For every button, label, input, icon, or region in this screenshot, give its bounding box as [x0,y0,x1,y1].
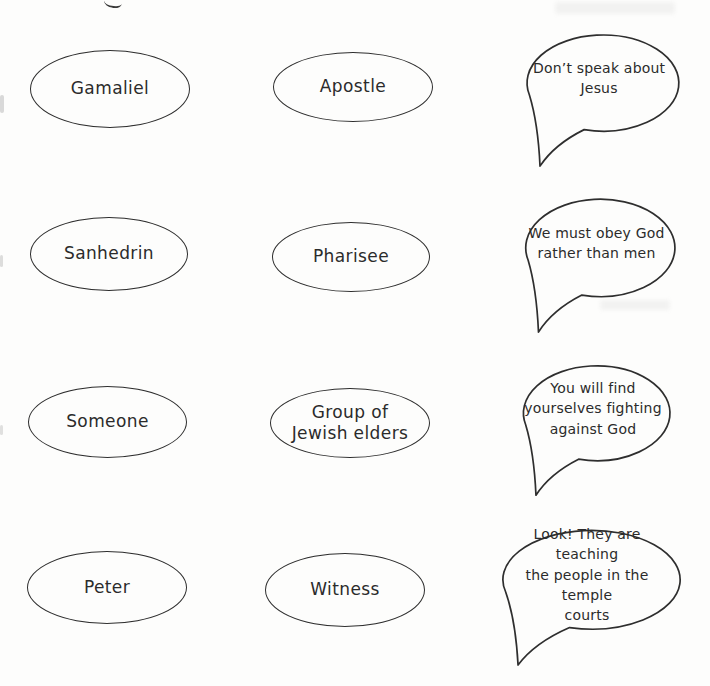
role-oval-jewish-elders[interactable]: Group of Jewish elders [270,388,430,458]
character-oval-someone[interactable]: Someone [28,386,187,458]
character-label: Someone [66,411,149,432]
speech-bubble-dont-speak[interactable]: Don’t speak about Jesus [510,22,683,170]
scan-edge-mark [0,425,3,435]
character-oval-sanhedrin[interactable]: Sanhedrin [30,217,188,291]
role-label: Group of Jewish elders [292,402,409,445]
quote-text: Don’t speak about Jesus [527,29,671,127]
scan-edge-mark [0,95,4,113]
quote-text: Look! They are teaching the people in th… [503,525,671,625]
character-label: Gamaliel [71,78,149,99]
role-label: Witness [310,579,380,600]
worksheet-page: Gamaliel Apostle Don’t speak about Jesus… [0,0,710,686]
speech-bubble-fighting-god[interactable]: You will find yourselves fighting agains… [507,353,674,499]
scan-edge-mark [0,255,3,267]
role-oval-pharisee[interactable]: Pharisee [272,222,430,292]
role-oval-witness[interactable]: Witness [265,553,425,627]
cut-off-title-descender [103,0,122,9]
role-label: Pharisee [313,246,389,267]
scan-smudge [555,2,675,14]
character-label: Peter [84,577,130,598]
role-oval-apostle[interactable]: Apostle [273,52,433,122]
speech-bubble-temple-courts[interactable]: Look! They are teaching the people in th… [483,517,685,669]
character-oval-peter[interactable]: Peter [27,551,187,624]
role-label: Apostle [320,76,386,97]
character-oval-gamaliel[interactable]: Gamaliel [30,50,190,128]
speech-bubble-obey-god[interactable]: We must obey God rather than men [509,186,679,336]
quote-text: We must obey God rather than men [526,194,667,293]
character-label: Sanhedrin [64,243,154,264]
quote-text: You will find yourselves fighting agains… [524,360,663,456]
